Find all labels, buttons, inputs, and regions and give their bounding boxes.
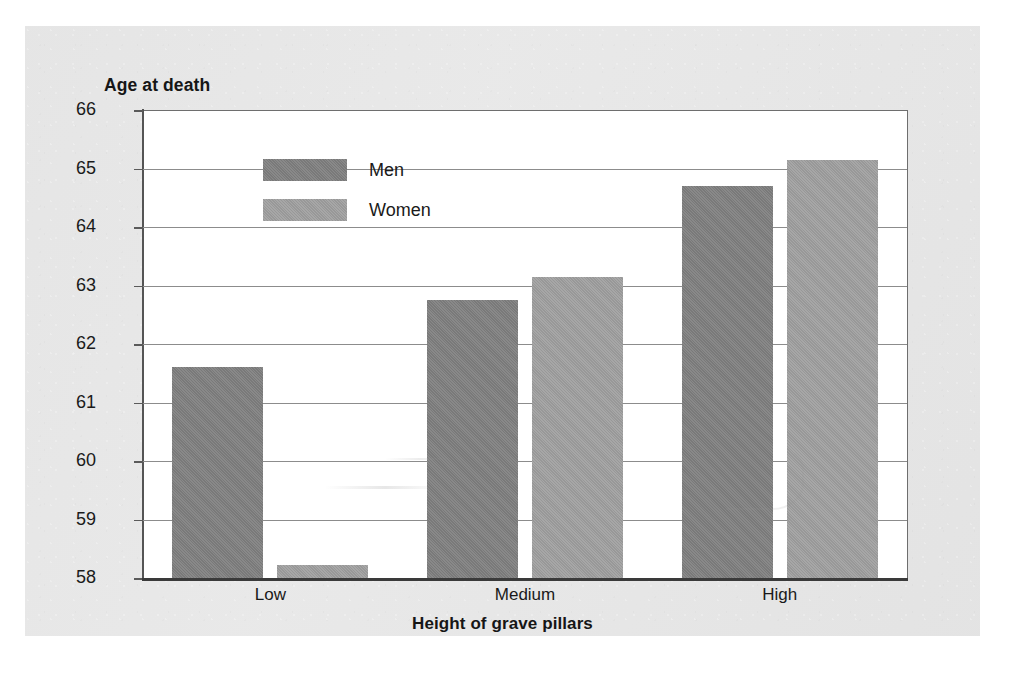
bar-low-women [277, 565, 368, 578]
y-tick-label: 63 [36, 275, 96, 296]
y-tick-mark [134, 227, 143, 229]
x-axis-line [142, 578, 908, 581]
bar-chart: Age at death 666564636261605958 LowMediu… [25, 26, 980, 636]
y-tick-label: 62 [36, 333, 96, 354]
bar-medium-men [427, 300, 518, 578]
y-tick-mark [134, 403, 143, 405]
legend-label-women: Women [369, 200, 431, 221]
legend-item-men: Men [263, 150, 463, 190]
legend-label-men: Men [369, 160, 404, 181]
bar-low-men [172, 367, 263, 578]
y-tick-label: 58 [36, 567, 96, 588]
legend-swatch-men [263, 159, 347, 181]
legend-item-women: Women [263, 190, 463, 230]
y-tick-mark [134, 520, 143, 522]
y-tick-mark [134, 110, 143, 112]
y-tick-label: 60 [36, 450, 96, 471]
x-category-label-low: Low [190, 585, 350, 605]
bar-high-women [787, 160, 878, 578]
y-tick-mark [134, 461, 143, 463]
y-tick-mark [134, 169, 143, 171]
legend-swatch-women [263, 199, 347, 221]
x-category-label-high: High [700, 585, 860, 605]
y-tick-label: 61 [36, 392, 96, 413]
x-axis-title: Height of grave pillars [25, 614, 980, 634]
chart-legend: Men Women [263, 150, 463, 230]
y-tick-label: 64 [36, 216, 96, 237]
y-tick-mark [134, 344, 143, 346]
y-tick-mark [134, 286, 143, 288]
bar-medium-women [532, 277, 623, 578]
bar-high-men [682, 186, 773, 578]
bar-series-layer [143, 110, 907, 578]
y-axis-title: Age at death [104, 75, 210, 96]
y-tick-label: 59 [36, 509, 96, 530]
x-category-label-medium: Medium [445, 585, 605, 605]
y-tick-label: 65 [36, 158, 96, 179]
y-tick-label: 66 [36, 99, 96, 120]
scanned-page-sheet: Age at death 666564636261605958 LowMediu… [25, 26, 980, 636]
